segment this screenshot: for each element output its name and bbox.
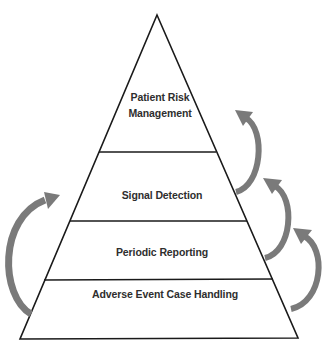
level-periodic-reporting-label: Periodic Reporting: [116, 244, 208, 260]
pyramid-diagram: Patient Risk Management Signal Detection…: [0, 0, 330, 348]
curved-arrow-right-1-icon: [235, 110, 259, 192]
level-top-label-line1: Patient Risk: [131, 89, 190, 105]
level-top-label-line2: Management: [128, 105, 191, 121]
level-signal-detection-label: Signal Detection: [122, 187, 203, 203]
curved-arrow-right-2-icon: [263, 178, 288, 258]
curved-arrow-right-3-icon: [291, 228, 319, 309]
level-adverse-event-label: Adverse Event Case Handling: [92, 286, 238, 302]
